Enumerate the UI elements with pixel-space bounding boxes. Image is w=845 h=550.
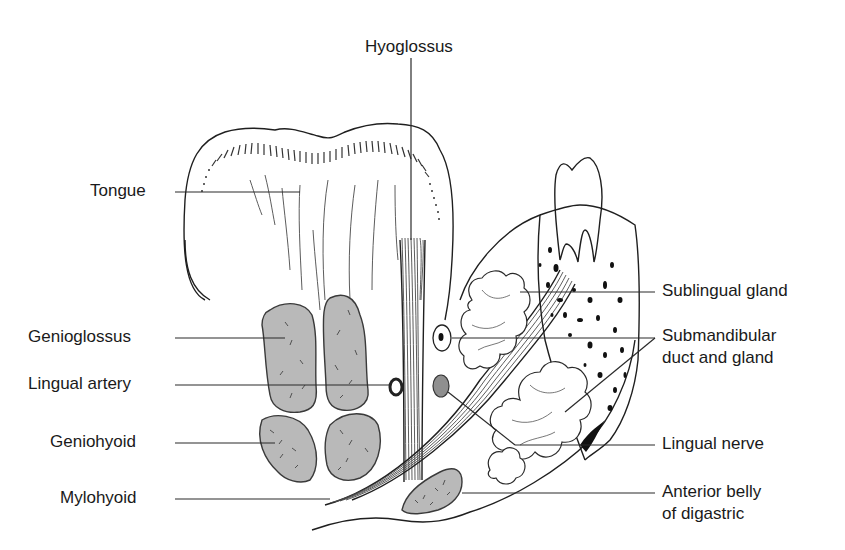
submandibular-duct <box>433 325 451 351</box>
label-mylohyoid: Mylohyoid <box>60 487 137 508</box>
label-sublingual-gland: Sublingual gland <box>662 280 788 301</box>
label-geniohyoid: Geniohyoid <box>50 431 136 452</box>
label-lingual-artery: Lingual artery <box>28 373 131 394</box>
lingual-artery-shape <box>390 379 402 395</box>
submandibular-gland-shape <box>488 362 591 484</box>
diagram-drawing <box>0 0 845 550</box>
anatomy-diagram: Hyoglossus Tongue Genioglossus Lingual a… <box>0 0 845 550</box>
genioglossus-shape <box>262 295 368 412</box>
label-tongue: Tongue <box>90 180 146 201</box>
label-submandibular-line1: Submandibular <box>662 325 776 346</box>
lingual-nerve-shape <box>433 375 449 397</box>
geniohyoid-shape <box>260 414 381 482</box>
label-lingual-nerve: Lingual nerve <box>662 433 764 454</box>
hyoglossus-bundle <box>400 238 425 482</box>
digastric-shape <box>402 469 462 514</box>
label-digastric-line2: of digastric <box>662 503 744 524</box>
label-digastric-line1: Anterior belly <box>662 481 761 502</box>
label-submandibular-line2: duct and gland <box>662 347 774 368</box>
sublingual-gland-shape <box>459 271 530 369</box>
label-genioglossus: Genioglossus <box>28 326 131 347</box>
label-hyoglossus: Hyoglossus <box>365 36 453 57</box>
